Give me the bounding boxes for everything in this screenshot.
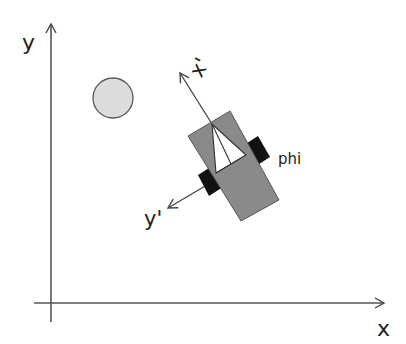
robot: phi bbox=[188, 111, 301, 221]
x-axis-label: x bbox=[377, 316, 390, 341]
obstacle-circle bbox=[93, 78, 133, 118]
x-prime-label: x' bbox=[185, 54, 215, 81]
x-prime-axis bbox=[180, 73, 212, 124]
heading-label: phi bbox=[278, 150, 301, 168]
robot-body bbox=[188, 111, 279, 221]
y-axis-label: y bbox=[22, 30, 35, 55]
y-prime-label: y' bbox=[144, 207, 162, 231]
robot-coordinate-diagram: y x x' y' phi bbox=[0, 0, 406, 344]
